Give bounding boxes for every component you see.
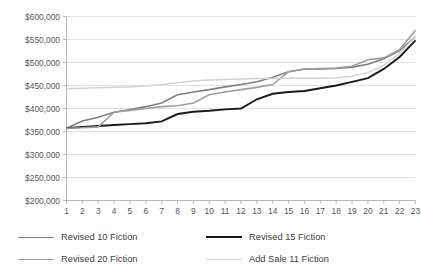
chart-canvas: $600,000$550,000$500,000$450,000$400,000… xyxy=(0,0,421,222)
legend-line-icon xyxy=(18,237,54,238)
legend-line-icon xyxy=(206,259,242,260)
x-axis-tick-label: 18 xyxy=(332,206,342,216)
y-axis-tick-label: $200,000 xyxy=(25,196,60,206)
x-axis-tick-label: 10 xyxy=(205,206,215,216)
legend-label: Revised 20 Fiction xyxy=(61,254,137,264)
y-axis-tick-labels: $600,000$550,000$500,000$450,000$400,000… xyxy=(25,12,60,206)
legend-label: Revised 15 Fiction xyxy=(249,232,325,242)
y-axis-tick-label: $400,000 xyxy=(25,104,60,114)
x-axis-tick-label: 22 xyxy=(395,206,405,216)
x-axis-tick-label: 16 xyxy=(300,206,310,216)
series-line-revised-10-fiction xyxy=(67,37,416,129)
x-axis-tick-label: 21 xyxy=(379,206,389,216)
legend-row-top: Revised 10 Fiction Revised 15 Fiction xyxy=(0,226,421,248)
x-axis-tick-label: 9 xyxy=(191,206,196,216)
legend-line-icon xyxy=(18,259,54,260)
legend-line-icon xyxy=(206,236,242,238)
x-axis-tick-label: 6 xyxy=(143,206,148,216)
x-axis-tick-label: 5 xyxy=(128,206,133,216)
x-axis-tick-label: 1 xyxy=(64,206,69,216)
legend-label: Revised 10 Fiction xyxy=(61,232,137,242)
x-axis-tick-label: 2 xyxy=(80,206,85,216)
y-axis-tick-label: $550,000 xyxy=(25,35,60,45)
x-axis-tick-labels: 1234567891011121314151617181920212223 xyxy=(64,206,420,216)
y-axis-tick-label: $500,000 xyxy=(25,58,60,68)
x-axis-tick-label: 15 xyxy=(284,206,294,216)
x-axis-tick-label: 3 xyxy=(96,206,101,216)
x-axis-tick-label: 7 xyxy=(159,206,164,216)
chart-legend: Revised 10 Fiction Revised 15 Fiction Re… xyxy=(0,222,421,277)
x-axis-tick-label: 13 xyxy=(252,206,262,216)
x-axis-tick-label: 4 xyxy=(112,206,117,216)
plot-area: $600,000$550,000$500,000$450,000$400,000… xyxy=(0,0,421,222)
x-axis-tick-label: 8 xyxy=(175,206,180,216)
x-axis-tick-label: 23 xyxy=(411,206,421,216)
x-axis-tick-label: 12 xyxy=(236,206,246,216)
legend-row-bottom: Revised 20 Fiction Add Sale 11 Fiction xyxy=(0,248,421,270)
x-axis-tick-label: 14 xyxy=(268,206,278,216)
legend-item-revised-10-fiction[interactable]: Revised 10 Fiction xyxy=(18,232,188,242)
x-axis-tick-label: 11 xyxy=(221,206,230,216)
x-axis-tick-label: 17 xyxy=(316,206,326,216)
x-axis-tick-marks xyxy=(67,201,416,205)
legend-item-revised-15-fiction[interactable]: Revised 15 Fiction xyxy=(206,232,376,242)
x-axis-tick-label: 20 xyxy=(363,206,373,216)
legend-item-add-sale-11-fiction[interactable]: Add Sale 11 Fiction xyxy=(206,254,376,264)
y-axis-tick-label: $450,000 xyxy=(25,81,60,91)
y-axis-tick-label: $250,000 xyxy=(25,173,60,183)
x-axis-tick-label: 19 xyxy=(347,206,357,216)
y-axis-tick-label: $300,000 xyxy=(25,150,60,160)
line-chart: $600,000$550,000$500,000$450,000$400,000… xyxy=(0,0,421,277)
legend-label: Add Sale 11 Fiction xyxy=(249,254,329,264)
data-series xyxy=(67,30,416,128)
legend-item-revised-20-fiction[interactable]: Revised 20 Fiction xyxy=(18,254,188,264)
y-axis-tick-label: $350,000 xyxy=(25,127,60,137)
y-axis-tick-label: $600,000 xyxy=(25,12,60,22)
